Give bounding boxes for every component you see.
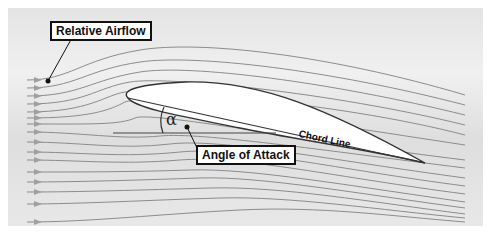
relative-airflow-label: Relative Airflow bbox=[50, 21, 152, 41]
relative-airflow-dot bbox=[46, 79, 51, 84]
angle-of-attack-label: Angle of Attack bbox=[196, 145, 296, 165]
flow-arrows bbox=[34, 77, 42, 225]
alpha-symbol: α bbox=[166, 110, 177, 129]
relative-airflow-leader bbox=[48, 36, 73, 81]
angle-of-attack-dot bbox=[185, 125, 190, 130]
streamlines bbox=[27, 47, 465, 222]
